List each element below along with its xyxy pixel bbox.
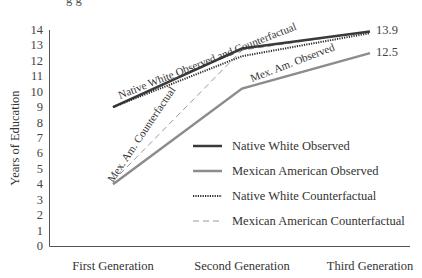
y-tick-label: 8 xyxy=(37,116,43,130)
x-category-label: Third Generation xyxy=(327,259,414,273)
y-tick-label: 14 xyxy=(31,23,44,37)
y-tick-label: 6 xyxy=(37,146,43,160)
y-tick-label: 2 xyxy=(37,208,43,222)
legend-item: Mexican American Counterfactual xyxy=(193,214,405,228)
y-tick-label: 12 xyxy=(31,54,44,68)
y-tick-label: 9 xyxy=(37,100,43,114)
y-axis-label: Years of Education xyxy=(8,90,22,186)
annotation-mex-counterfactual: Mex. Am. Counterfactual xyxy=(105,84,178,184)
y-tick-label: 13 xyxy=(31,38,44,52)
legend: Native White ObservedMexican American Ob… xyxy=(193,139,405,228)
y-tick-label: 7 xyxy=(37,131,43,145)
x-category-label: First Generation xyxy=(72,259,154,273)
x-axis-categories: First GenerationSecond GenerationThird G… xyxy=(72,259,414,273)
line-chart: g g 01234567891011121314 Years of Educat… xyxy=(0,0,422,278)
end-label-native-white: 13.9 xyxy=(376,23,398,37)
legend-item: Native White Counterfactual xyxy=(193,189,377,203)
y-axis-ticks: 01234567891011121314 xyxy=(31,23,44,253)
legend-label: Mexican American Counterfactual xyxy=(232,214,405,228)
y-tick-label: 5 xyxy=(37,162,43,176)
end-label-mexican-observed: 12.5 xyxy=(376,45,398,59)
annotation-native-white: Native White Observed and Counterfactual xyxy=(116,20,298,101)
y-tick-label: 0 xyxy=(37,239,43,253)
y-tick-label: 4 xyxy=(37,177,44,191)
cut-off-title: g g xyxy=(66,0,82,6)
legend-label: Native White Counterfactual xyxy=(232,189,377,203)
x-category-label: Second Generation xyxy=(194,259,290,273)
legend-item: Native White Observed xyxy=(193,139,351,153)
legend-label: Mexican American Observed xyxy=(232,164,379,178)
y-tick-label: 1 xyxy=(37,224,43,238)
y-tick-label: 11 xyxy=(31,69,43,83)
y-tick-label: 3 xyxy=(37,193,43,207)
legend-item: Mexican American Observed xyxy=(193,164,379,178)
legend-label: Native White Observed xyxy=(232,139,351,153)
y-tick-label: 10 xyxy=(31,85,44,99)
